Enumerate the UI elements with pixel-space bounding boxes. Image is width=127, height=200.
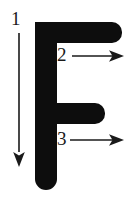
letter-f-corner-fill-top [35, 22, 57, 46]
stroke-2-arrow [72, 50, 124, 62]
stroke-1-arrow [13, 33, 25, 167]
letter-f-corner-fill-middle [35, 103, 57, 124]
stroke-1-arrowhead [13, 152, 25, 167]
diagram-canvas [0, 0, 127, 200]
stroke-3-arrow [70, 134, 124, 146]
capital-letter-f-glyph [35, 22, 122, 190]
stroke-number-1: 1 [11, 9, 21, 28]
letter-stroke-order-diagram: 1 2 3 [0, 0, 127, 200]
stroke-number-3: 3 [57, 129, 67, 148]
stroke-number-2: 2 [57, 45, 67, 64]
